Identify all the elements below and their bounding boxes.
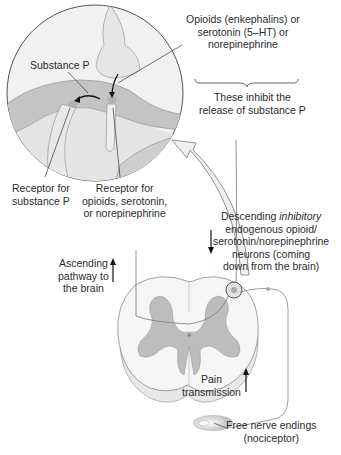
- label-receptor-substance-p: Receptor for substance P: [12, 182, 70, 207]
- ascending-arrow: [110, 258, 116, 282]
- brace: [195, 79, 298, 87]
- label-receptor-opioids: Receptor for opioids, serotonin, or nore…: [82, 182, 167, 220]
- label-inhibit: These inhibit the release of substance P: [199, 91, 306, 116]
- label-opioids: Opioids (enkephalins) or serotonin (5–HT…: [186, 13, 300, 51]
- label-pain-transmission: Pain transmission: [182, 373, 241, 398]
- synapse-magnification: [0, 5, 200, 200]
- label-descending: Descending inhibitory endogenous opioid/…: [213, 210, 329, 273]
- label-substance-p: Substance P: [30, 59, 90, 72]
- label-nerve-endings: Free nerve endings (nociceptor): [226, 419, 316, 444]
- spinal-cord-cross-section: [118, 250, 288, 428]
- label-ascending: Ascending pathway to the brain: [58, 257, 109, 295]
